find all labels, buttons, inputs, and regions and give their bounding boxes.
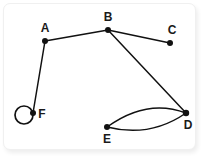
- graph-node-label-a: A: [41, 21, 50, 35]
- graph-node-label-b: B: [104, 10, 113, 24]
- edge-a-b: [45, 30, 108, 41]
- graph-node-label-d: D: [184, 118, 193, 132]
- graph-node-c: [167, 40, 173, 46]
- node-labels-layer: ABCDEF: [38, 10, 192, 146]
- graph-node-b: [105, 27, 111, 33]
- edges-layer: [33, 30, 186, 130]
- graph-node-label-e: E: [103, 132, 111, 146]
- graph-node-d: [183, 110, 189, 116]
- graph-node-label-f: F: [38, 107, 45, 121]
- graph-node-f: [30, 110, 36, 116]
- loop-f: [15, 106, 33, 124]
- self-loops-layer: [15, 106, 33, 124]
- edge-a-f: [33, 41, 45, 113]
- graph-node-label-c: C: [168, 23, 177, 37]
- graph-node-e: [104, 124, 110, 130]
- edge-e-d-lower: [107, 113, 186, 130]
- edge-b-d: [108, 30, 186, 113]
- graph-diagram: ABCDEF: [0, 0, 203, 157]
- edge-e-d-upper: [107, 108, 186, 127]
- graph-node-a: [42, 38, 48, 44]
- diagram-canvas: ABCDEF: [0, 0, 203, 157]
- edge-b-c: [108, 30, 170, 43]
